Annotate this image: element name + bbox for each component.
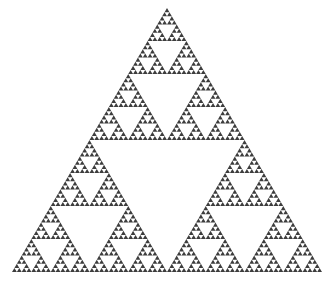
sierpinski-triangle-figure bbox=[0, 0, 331, 290]
figure-root bbox=[0, 0, 331, 290]
figure-background bbox=[0, 0, 331, 290]
